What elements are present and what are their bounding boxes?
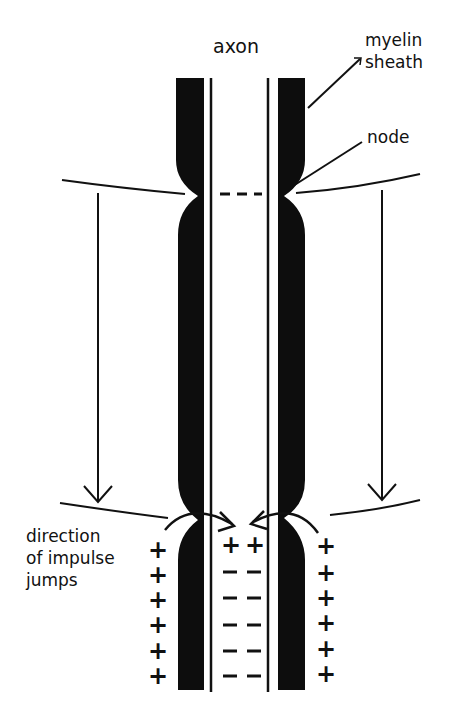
plus-sign: + [148, 662, 168, 690]
boundary-curve-top-right [296, 174, 420, 193]
plus-sign: + [148, 586, 168, 614]
outer-left-charges: + + + + + + [148, 536, 168, 690]
axon-label: axon [213, 35, 259, 57]
plus-sign: + [148, 561, 168, 589]
myelin-label-line1: myelin [365, 30, 422, 50]
boundary-curve-bottom-right [330, 500, 420, 515]
myelin-sheath-left [176, 78, 204, 690]
inner-negative-charges [223, 572, 261, 676]
plus-sign: + [316, 532, 336, 560]
plus-sign: + [316, 635, 336, 663]
saltatory-conduction-diagram: axon myelin sheath node direction of imp… [0, 0, 454, 715]
plus-sign: + [316, 584, 336, 612]
direction-label-line2: of impulse [26, 548, 115, 568]
node-label: node [367, 127, 409, 147]
plus-sign: + [221, 531, 241, 559]
outer-right-charges: + + + + + + [316, 532, 336, 688]
plus-sign: + [148, 611, 168, 639]
boundary-curve-bottom-left [60, 503, 168, 518]
myelin-label-line2: sheath [365, 52, 423, 72]
myelin-sheath-right [278, 78, 305, 690]
plus-sign: + [316, 559, 336, 587]
boundary-curve-top-left [62, 180, 185, 194]
plus-sign: + [148, 637, 168, 665]
myelin-pointer [308, 58, 361, 108]
plus-sign: + [316, 660, 336, 688]
plus-sign: + [316, 609, 336, 637]
direction-label-line1: direction [26, 526, 101, 546]
impulse-arrow-right [368, 190, 396, 500]
inner-positive-charges: + + [221, 531, 265, 559]
direction-label-line3: jumps [25, 570, 78, 590]
plus-sign: + [245, 531, 265, 559]
plus-sign: + [148, 536, 168, 564]
impulse-arrow-left [84, 193, 112, 502]
